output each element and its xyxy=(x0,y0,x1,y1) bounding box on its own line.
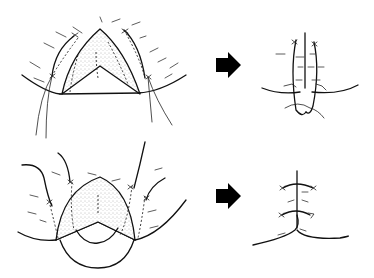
arrow-right-icon xyxy=(216,183,241,209)
diagram-svg xyxy=(0,0,374,278)
top-suture-left xyxy=(36,76,52,135)
bottom-before-flap xyxy=(18,142,186,268)
bottom-after-closure xyxy=(253,171,348,245)
surgical-flap-diagram xyxy=(0,0,374,278)
top-flap-wedge xyxy=(62,29,140,94)
top-after-closure xyxy=(262,33,358,118)
top-before-flap xyxy=(22,17,186,138)
bottom-flap-wedge xyxy=(56,177,135,240)
arrow-right-icon xyxy=(216,52,241,78)
